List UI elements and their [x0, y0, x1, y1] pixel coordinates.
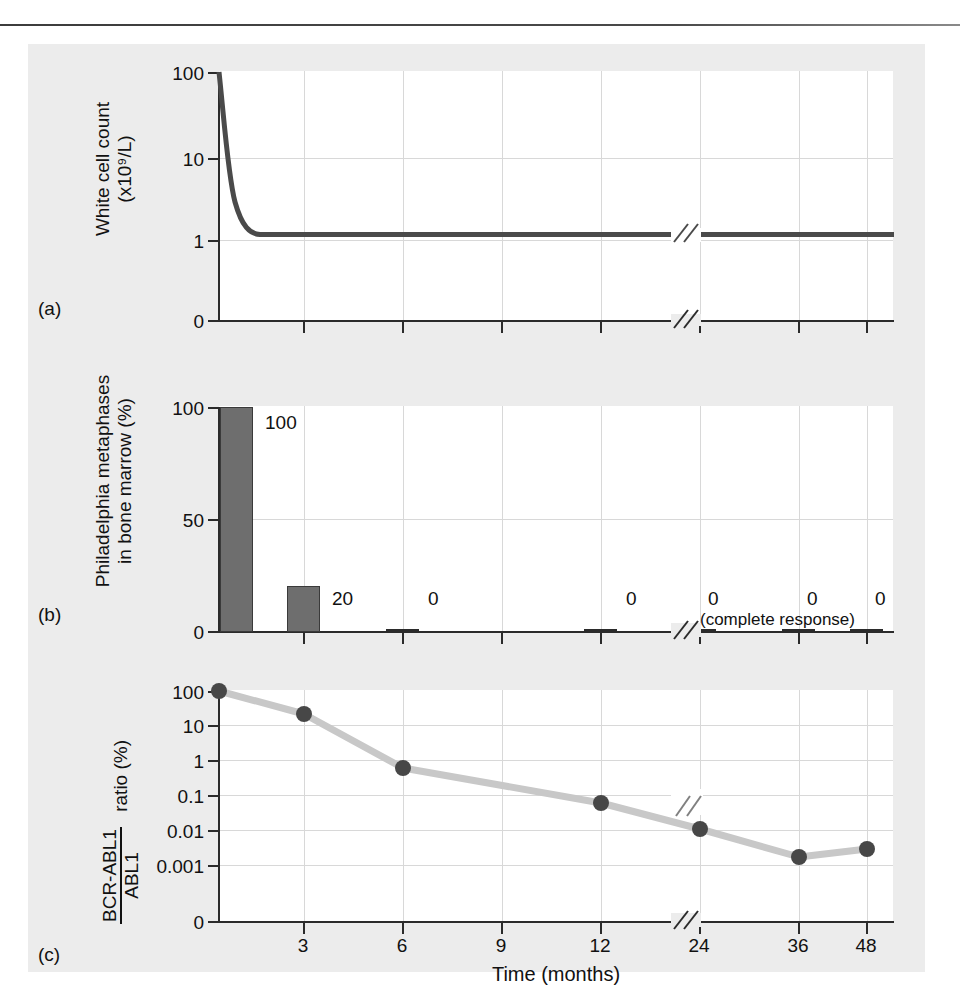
- panel-c-trend-line: [219, 691, 867, 857]
- panel-b: (b) Philadelphia metaphases in bone marr…: [28, 354, 925, 644]
- panel-c-point-3mo: [296, 706, 312, 722]
- panel-c: (c) BCR-ABL1 ABL1 ratio (%): [28, 644, 925, 972]
- panel-c-series-svg: [28, 644, 925, 972]
- page-top-rule: [0, 24, 960, 26]
- panel-c-point-36mo: [791, 849, 807, 865]
- panel-a-wcc-curve: [219, 72, 894, 235]
- panel-b-break-svg: [28, 354, 925, 644]
- panel-a-curve-svg: [28, 44, 925, 344]
- figure-container: (a) White cell count (x10⁹/L) 100 10 1 0: [28, 44, 925, 972]
- panel-c-point-12mo: [593, 795, 609, 811]
- panel-c-point-48mo: [859, 841, 875, 857]
- panel-c-point-6mo: [395, 760, 411, 776]
- panel-c-point-24mo: [692, 821, 708, 837]
- panel-a: (a) White cell count (x10⁹/L) 100 10 1 0: [28, 44, 925, 344]
- panel-c-point-0mo: [211, 683, 227, 699]
